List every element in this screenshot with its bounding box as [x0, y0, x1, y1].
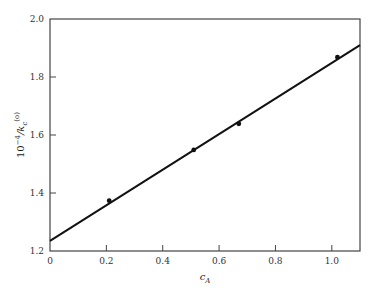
x-axis-label: cA	[200, 271, 211, 285]
chart: 00.20.40.60.81.0 1.21.41.61.82.0 cA 10−4…	[0, 0, 372, 294]
fit-line	[50, 45, 360, 241]
y-tick-label: 1.2	[30, 246, 44, 256]
y-axis-ticks: 1.21.41.61.82.0	[30, 14, 56, 256]
x-tick-label: 0.8	[268, 256, 283, 266]
y-tick-label: 2.0	[30, 14, 45, 24]
plot-frame	[50, 19, 360, 251]
plot-border	[50, 19, 360, 251]
x-tick-label: 1.0	[325, 256, 340, 266]
x-axis-ticks: 00.20.40.60.81.0	[47, 245, 339, 266]
x-tick-label: 0.6	[212, 256, 227, 266]
y-tick-label: 1.6	[30, 130, 45, 140]
x-tick-label: 0	[47, 256, 53, 266]
x-tick-label: 0.2	[99, 256, 113, 266]
data-series	[50, 45, 360, 241]
y-tick-label: 1.4	[30, 188, 45, 198]
x-tick-label: 0.4	[156, 256, 171, 266]
y-tick-label: 1.8	[30, 72, 45, 82]
y-axis-label: 10−4/kc(o)	[13, 112, 29, 158]
